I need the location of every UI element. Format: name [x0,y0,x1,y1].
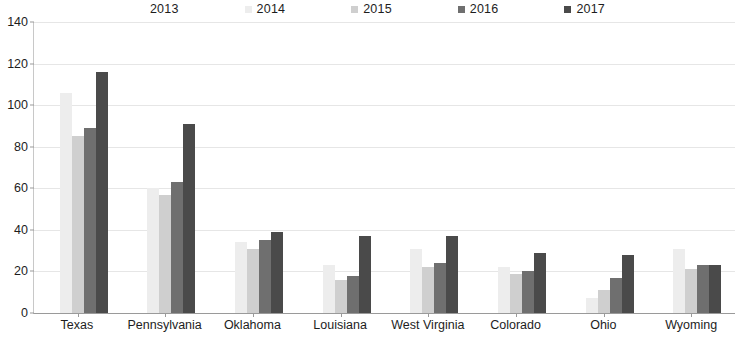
bar[interactable] [697,265,709,313]
legend-item[interactable]: 2015 [351,3,392,16]
y-axis-tick-label: 60 [14,182,28,195]
legend-swatch-icon [245,6,252,13]
chart-legend: 20132014201520162017 [0,0,743,18]
bar[interactable] [84,128,96,313]
legend-swatch-icon [351,6,358,13]
legend-item[interactable]: 2017 [564,3,605,16]
x-axis-label: Oklahoma [209,318,297,338]
x-axis-tick-mark [691,313,692,317]
bar[interactable] [498,267,510,313]
bar[interactable] [60,93,72,313]
bar[interactable] [359,236,371,313]
x-axis-tick-mark [165,313,166,317]
bar[interactable] [183,124,195,313]
bar[interactable] [171,182,183,313]
bar[interactable] [434,263,446,313]
bar[interactable] [422,267,434,313]
x-axis-label: West Virginia [384,318,472,338]
legend-swatch-icon [138,6,145,13]
bar-group [34,22,122,313]
x-axis-tick-mark [516,313,517,317]
legend-item[interactable]: 2016 [458,3,499,16]
legend-swatch-icon [458,6,465,13]
x-axis-tick-mark [428,313,429,317]
bar[interactable] [259,240,271,313]
x-axis-label: Texas [33,318,121,338]
bar[interactable] [72,136,84,313]
bar-group [209,22,297,313]
y-axis-tick-label: 120 [7,57,28,70]
bar[interactable] [247,249,259,313]
bar[interactable] [96,72,108,313]
bar[interactable] [410,249,422,313]
y-axis-tick-label: 0 [21,307,28,320]
bar-group [472,22,560,313]
bar-group [122,22,210,313]
bar-chart: 20132014201520162017 020406080100120140 … [0,0,743,350]
legend-item[interactable]: 2014 [245,3,286,16]
legend-label: 2015 [363,3,392,16]
bar[interactable] [586,298,598,313]
bar[interactable] [446,236,458,313]
bar[interactable] [147,188,159,313]
x-axis-tick-mark [604,313,605,317]
legend-swatch-icon [564,6,571,13]
y-axis-tick-label: 80 [14,140,28,153]
bar-group [297,22,385,313]
x-axis-labels: TexasPennsylvaniaOklahomaLouisianaWest V… [33,318,735,338]
bar[interactable] [685,269,697,313]
bar[interactable] [622,255,634,313]
x-axis-label: Ohio [560,318,648,338]
bar[interactable] [610,278,622,313]
x-axis-tick-mark [78,313,79,317]
legend-item[interactable]: 2013 [138,3,179,16]
legend-label: 2017 [576,3,605,16]
x-axis-tick-mark [253,313,254,317]
y-axis-tick-label: 140 [7,16,28,29]
bar[interactable] [534,253,546,313]
bar[interactable] [510,274,522,313]
bar-group [385,22,473,313]
x-axis-label: Wyoming [647,318,735,338]
x-axis-label: Louisiana [296,318,384,338]
bar[interactable] [159,195,171,313]
bar[interactable] [271,232,283,313]
legend-label: 2013 [150,3,179,16]
x-axis-tick-mark [341,313,342,317]
y-axis-tick-label: 100 [7,99,28,112]
plot-area: 020406080100120140 [33,22,735,314]
x-axis-label: Pennsylvania [121,318,209,338]
bar-groups [34,22,735,313]
bar[interactable] [347,276,359,313]
bar[interactable] [709,265,721,313]
bar[interactable] [235,242,247,313]
bar[interactable] [673,249,685,313]
bar[interactable] [522,271,534,313]
bar[interactable] [598,290,610,313]
bar-group [560,22,648,313]
bar-group [647,22,735,313]
legend-label: 2016 [470,3,499,16]
y-axis-tick-label: 20 [14,265,28,278]
bar[interactable] [335,280,347,313]
y-axis-tick-label: 40 [14,224,28,237]
bar[interactable] [323,265,335,313]
x-axis-label: Colorado [472,318,560,338]
legend-label: 2014 [257,3,286,16]
